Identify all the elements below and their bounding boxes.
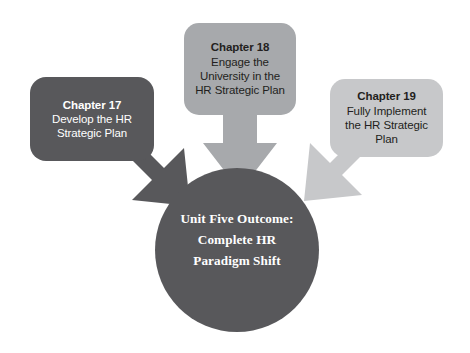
diagram-vector-layer: [0, 0, 470, 353]
node-box-chapter-17[interactable]: [30, 77, 154, 161]
outcome-circle[interactable]: [155, 168, 319, 332]
node-box-chapter-18[interactable]: [184, 23, 296, 115]
diagram-canvas: Chapter 17 Develop the HR Strategic Plan…: [0, 0, 470, 353]
node-box-chapter-19[interactable]: [330, 79, 443, 157]
